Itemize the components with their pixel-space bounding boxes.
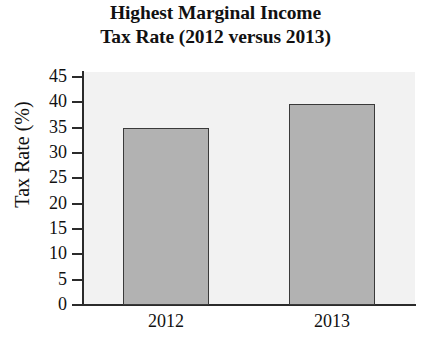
y-tick-label: 20 xyxy=(49,193,67,213)
y-tick-mark xyxy=(72,304,83,306)
bar-2012[interactable] xyxy=(123,128,209,305)
y-tick-label: 35 xyxy=(49,117,67,137)
y-tick-mark xyxy=(72,101,83,103)
y-tick-label: 15 xyxy=(49,218,67,238)
y-tick-label: 45 xyxy=(49,66,67,86)
chart-title-line-2: Tax Rate (2012 versus 2013) xyxy=(0,25,431,49)
y-tick-mark xyxy=(72,177,83,179)
y-axis-title: Tax Rate (%) xyxy=(11,85,34,225)
y-tick-label: 10 xyxy=(49,243,67,263)
y-tick-label: 30 xyxy=(49,142,67,162)
y-tick-mark xyxy=(72,152,83,154)
x-axis-label: 2012 xyxy=(106,310,226,332)
bar-2013[interactable] xyxy=(289,104,375,305)
y-tick-label: 40 xyxy=(49,91,67,111)
y-tick-mark xyxy=(72,127,83,129)
y-tick-mark xyxy=(72,279,83,281)
y-tick-mark xyxy=(72,253,83,255)
y-axis-line xyxy=(82,71,84,306)
y-tick-mark xyxy=(72,203,83,205)
y-tick-label: 5 xyxy=(58,269,67,289)
chart-title: Highest Marginal Income Tax Rate (2012 v… xyxy=(0,1,431,49)
y-tick-mark xyxy=(72,228,83,230)
y-tick-label: 25 xyxy=(49,167,67,187)
bar-chart-figure: Highest Marginal Income Tax Rate (2012 v… xyxy=(0,0,431,346)
chart-title-line-1: Highest Marginal Income xyxy=(0,1,431,25)
y-tick-mark xyxy=(72,76,83,78)
x-axis-label: 2013 xyxy=(272,310,392,332)
y-tick-label: 0 xyxy=(58,294,67,314)
